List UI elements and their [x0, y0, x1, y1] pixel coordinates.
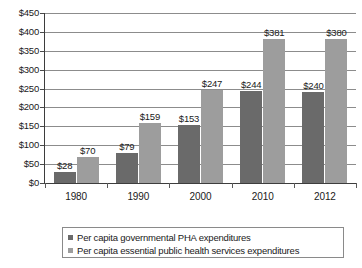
bar-value-label: $244: [241, 80, 261, 90]
bars-container: $28$70$79$159$153$247$244$381$240$380: [45, 13, 356, 183]
legend-swatch-icon: [68, 248, 73, 253]
x-tick-mark: [169, 183, 170, 188]
legend-item-label: Per capita essential public health servi…: [77, 245, 299, 256]
bar-value-label: $79: [119, 142, 134, 152]
bar[interactable]: $240: [302, 92, 324, 183]
x-axis: 19801990200020102012: [45, 190, 356, 206]
x-tick-mark: [294, 183, 295, 188]
bar[interactable]: $247: [201, 90, 223, 183]
bar[interactable]: $79: [116, 153, 138, 183]
bar-group: $244$381: [232, 13, 294, 183]
y-tick-label: $100: [19, 140, 39, 150]
x-axis-line: [44, 183, 356, 184]
bar[interactable]: $380: [325, 39, 347, 183]
bar-value-label: $380: [326, 28, 346, 38]
bar-value-label: $28: [57, 161, 72, 171]
legend-item: Per capita governmental PHA expenditures: [68, 231, 339, 243]
y-axis: $0$50$100$150$200$250$300$350$400$450: [0, 0, 42, 212]
bar-value-label: $153: [179, 114, 199, 124]
bar[interactable]: $159: [139, 123, 161, 183]
x-tick-label: 2012: [294, 190, 356, 206]
legend-item: Per capita essential public health servi…: [68, 244, 339, 256]
bar[interactable]: $381: [263, 39, 285, 183]
bar-group: $240$380: [294, 13, 356, 183]
y-tick-label: $300: [19, 65, 39, 75]
bar-value-label: $70: [80, 146, 95, 156]
bar-group: $79$159: [107, 13, 169, 183]
y-tick-label: $250: [19, 84, 39, 94]
bar[interactable]: $28: [54, 172, 76, 183]
x-tick-mark: [232, 183, 233, 188]
legend: Per capita governmental PHA expenditures…: [62, 227, 344, 258]
x-tick-mark: [45, 183, 46, 188]
y-tick-label: $50: [24, 159, 39, 169]
bar[interactable]: $70: [77, 157, 99, 183]
x-tick-mark: [356, 183, 357, 188]
bar-value-label: $247: [202, 79, 222, 89]
x-tick-label: 1980: [45, 190, 107, 206]
y-tick-label: $150: [19, 122, 39, 132]
bar-value-label: $240: [303, 81, 323, 91]
legend-swatch-icon: [68, 235, 73, 240]
x-tick-mark: [107, 183, 108, 188]
bar-group: $28$70: [45, 13, 107, 183]
bar[interactable]: $244: [240, 91, 262, 183]
x-tick-label: 2010: [232, 190, 294, 206]
bar-group: $153$247: [169, 13, 231, 183]
y-tick-label: $0: [29, 178, 39, 188]
bar-chart: $0$50$100$150$200$250$300$350$400$450 $2…: [0, 0, 362, 268]
y-tick-label: $400: [19, 27, 39, 37]
x-tick-label: 2000: [169, 190, 231, 206]
bar-value-label: $159: [140, 112, 160, 122]
legend-item-label: Per capita governmental PHA expenditures: [77, 232, 251, 243]
bar-value-label: $381: [264, 28, 284, 38]
x-tick-label: 1990: [107, 190, 169, 206]
bar[interactable]: $153: [178, 125, 200, 183]
plot-area: $0$50$100$150$200$250$300$350$400$450 $2…: [0, 0, 362, 212]
y-tick-label: $450: [19, 8, 39, 18]
y-tick-label: $200: [19, 103, 39, 113]
y-tick-label: $350: [19, 46, 39, 56]
